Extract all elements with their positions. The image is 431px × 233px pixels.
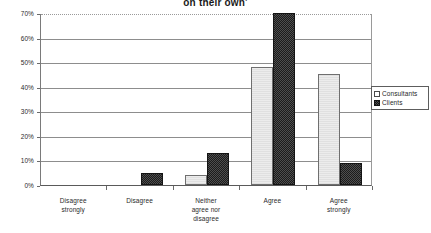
x-category-label: Agreestrongly [306, 196, 372, 214]
x-tick-mark [173, 186, 174, 190]
x-category-label-line: disagree [173, 214, 239, 223]
bar-consultants-2 [185, 175, 207, 185]
bar-clients-1 [141, 173, 163, 185]
x-tick-mark [239, 186, 240, 190]
x-category-label-line: Agree [306, 196, 372, 205]
bar-group [41, 14, 107, 185]
chart-screenshot: on their own' 0%10%20%30%40%50%60%70% Di… [0, 0, 431, 233]
y-tick-label: 70% [2, 10, 34, 17]
y-tick-label: 60% [2, 35, 34, 42]
bar-group [240, 14, 306, 185]
y-tick-label: 40% [2, 84, 34, 91]
light-swatch-icon [374, 91, 380, 97]
bar-consultants-3 [251, 67, 273, 185]
bar-clients-4 [340, 163, 362, 185]
y-tick-label: 50% [2, 59, 34, 66]
bar-clients-3 [273, 13, 295, 185]
legend-item-clients[interactable]: Clients [374, 98, 426, 107]
chart-title: on their own' [0, 0, 431, 8]
bar-group [107, 14, 173, 185]
bar-group [307, 14, 373, 185]
y-tick-label: 0% [2, 182, 34, 189]
y-tick-label: 10% [2, 157, 34, 164]
plot-area [40, 14, 372, 186]
y-tick-label: 20% [2, 133, 34, 140]
legend-item-label: Clients [382, 99, 403, 106]
x-category-label-line: Disagree [40, 196, 106, 205]
x-category-label: Neitheragree nordisagree [173, 196, 239, 223]
bar-clients-2 [207, 153, 229, 185]
x-category-label: Agree [239, 196, 305, 205]
dark-swatch-icon [374, 100, 380, 106]
bar-group [174, 14, 240, 185]
x-category-label-line: strongly [40, 205, 106, 214]
x-tick-mark [306, 186, 307, 190]
chart-legend: ConsultantsClients [371, 86, 429, 110]
x-category-label: Disagreestrongly [40, 196, 106, 214]
bar-consultants-4 [318, 74, 340, 185]
x-category-label-line: Neither [173, 196, 239, 205]
y-tick-label: 30% [2, 108, 34, 115]
x-category-label-line: Disagree [106, 196, 172, 205]
x-category-label: Disagree [106, 196, 172, 205]
y-tick-mark [37, 186, 40, 187]
x-category-label-line: agree nor [173, 205, 239, 214]
x-category-label-line: strongly [306, 205, 372, 214]
x-category-label-line: Agree [239, 196, 305, 205]
legend-item-label: Consultants [382, 90, 417, 97]
legend-item-consultants[interactable]: Consultants [374, 89, 426, 98]
x-tick-mark [372, 186, 373, 190]
x-tick-mark [106, 186, 107, 190]
